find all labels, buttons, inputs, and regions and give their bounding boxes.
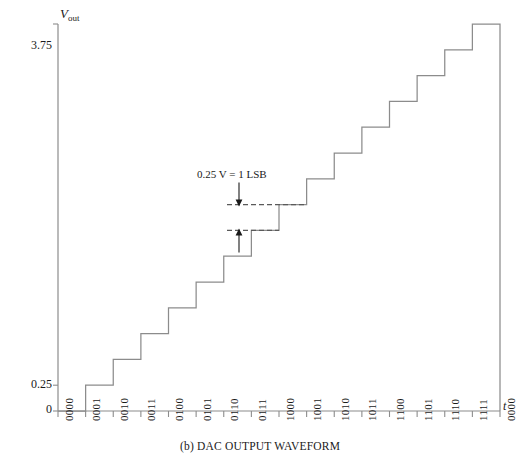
x-tick-label-14: 1110 bbox=[449, 399, 461, 421]
x-tick-label-3: 0011 bbox=[145, 398, 157, 421]
y-axis-label-subscript: out bbox=[68, 13, 80, 23]
y-axis-ticks bbox=[53, 24, 58, 411]
x-axis-label: t bbox=[503, 399, 506, 414]
x-tick-label-1: 0001 bbox=[90, 398, 102, 421]
lsb-up-arrow-head bbox=[236, 228, 243, 235]
lsb-down-arrow-head bbox=[236, 200, 243, 207]
x-tick-label-11: 1011 bbox=[366, 398, 378, 421]
y-tick-label-0: 0 bbox=[18, 402, 52, 417]
dac-output-waveform-figure: Vout 3.75 0.25 0 00000001001000110100010… bbox=[0, 0, 520, 461]
y-axis-label: Vout bbox=[60, 6, 79, 23]
x-tick-label-8: 1000 bbox=[284, 398, 296, 421]
x-tick-label-9: 1001 bbox=[311, 398, 323, 421]
x-tick-label-5: 0101 bbox=[201, 398, 213, 421]
y-axis-label-main: V bbox=[60, 6, 68, 21]
figure-caption: (b) DAC OUTPUT WAVEFORM bbox=[0, 440, 520, 452]
chart-plot-area bbox=[0, 0, 520, 461]
y-tick-label-375: 3.75 bbox=[18, 38, 52, 53]
x-tick-label-6: 0110 bbox=[228, 398, 240, 421]
x-tick-label-13: 1101 bbox=[422, 398, 434, 421]
lsb-annotation-group bbox=[227, 183, 307, 253]
x-tick-label-4: 0100 bbox=[173, 398, 185, 421]
x-tick-label-10: 1010 bbox=[339, 398, 351, 421]
x-tick-label-7: 0111 bbox=[256, 399, 268, 421]
x-tick-label-2: 0010 bbox=[118, 398, 130, 421]
x-tick-label-0: 0000 bbox=[63, 398, 75, 421]
y-tick-label-025: 0.25 bbox=[18, 377, 52, 392]
x-tick-label-15: 1111 bbox=[477, 399, 489, 421]
x-tick-label-12: 1100 bbox=[394, 398, 406, 421]
dac-staircase-waveform bbox=[58, 24, 500, 411]
lsb-annotation-text: 0.25 V = 1 LSB bbox=[197, 168, 267, 180]
